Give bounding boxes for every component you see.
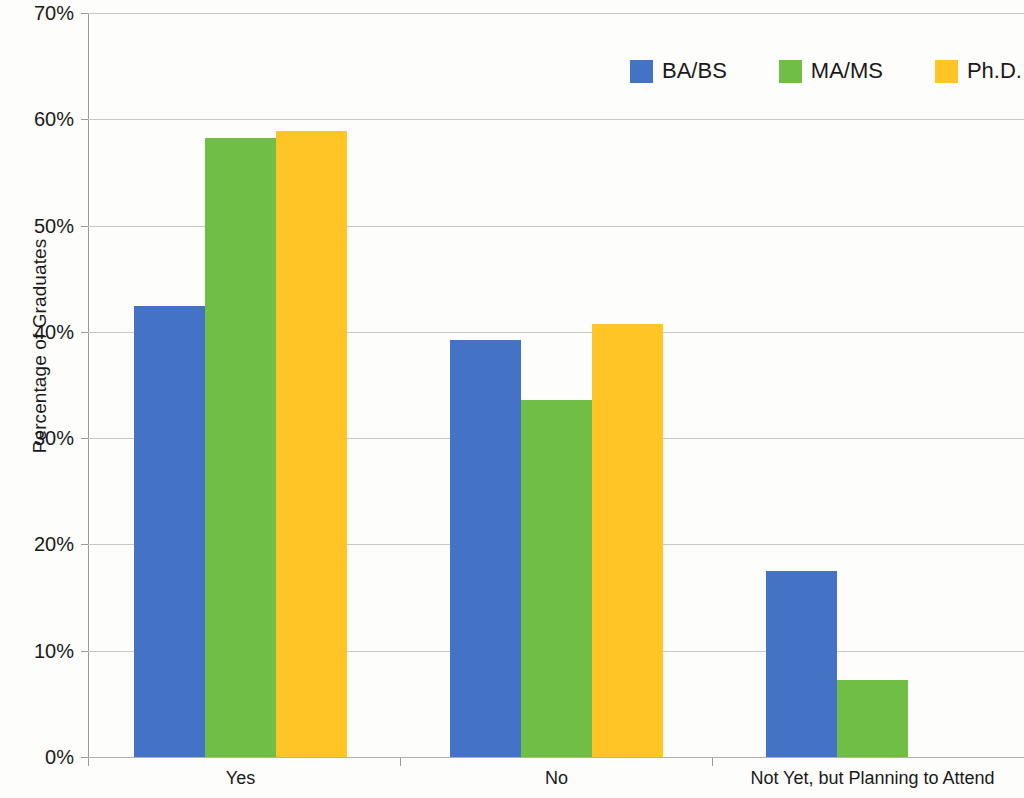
y-axis-tick-mark [81, 438, 88, 439]
x-axis-category-label: Not Yet, but Planning to Attend [750, 768, 994, 789]
bar [276, 131, 347, 757]
bar [134, 306, 205, 757]
bar [521, 400, 592, 757]
x-axis-tick-mark [88, 758, 89, 766]
legend-spacer [883, 71, 935, 72]
gridline [88, 757, 1024, 758]
x-axis-category-label: Yes [226, 768, 255, 789]
y-axis-tick-mark [81, 119, 88, 120]
bar [592, 324, 663, 757]
y-axis-tick-mark [81, 757, 88, 758]
legend-swatch-icon [779, 60, 802, 83]
legend-spacer [727, 71, 779, 72]
y-axis-tick-label: 70% [0, 2, 74, 25]
y-axis-tick-label: 30% [0, 427, 74, 450]
gridline [88, 13, 1024, 14]
legend-swatch-icon [935, 60, 958, 83]
y-axis-tick-label: 40% [0, 320, 74, 343]
y-axis-tick-label: 10% [0, 639, 74, 662]
y-axis-tick-mark [81, 226, 88, 227]
legend-label: Ph.D. [967, 58, 1022, 84]
chart-legend: BA/BSMA/MSPh.D. [630, 58, 1022, 84]
y-axis-tick-label: 60% [0, 108, 74, 131]
bar [766, 571, 837, 757]
y-axis-tick-label: 20% [0, 533, 74, 556]
legend-label: BA/BS [662, 58, 727, 84]
legend-swatch-icon [630, 60, 653, 83]
y-axis-tick-mark [81, 332, 88, 333]
legend-item-ba-bs: BA/BS [630, 58, 727, 84]
y-axis-title: Percentage of Graduates [29, 196, 51, 496]
x-axis-tick-mark [400, 758, 401, 766]
y-axis-tick-mark [81, 13, 88, 14]
legend-item-ma-ms: MA/MS [779, 58, 883, 84]
x-axis-tick-mark [712, 758, 713, 766]
bar-chart: Percentage of Graduates 0%10%20%30%40%50… [0, 0, 1024, 798]
bar [837, 680, 908, 757]
legend-label: MA/MS [811, 58, 883, 84]
x-axis-category-label: No [545, 768, 568, 789]
bar [450, 340, 521, 757]
gridline [88, 119, 1024, 120]
y-axis-tick-label: 50% [0, 214, 74, 237]
y-axis-tick-label: 0% [0, 746, 74, 769]
bar [205, 138, 276, 757]
plot-area [88, 13, 1024, 757]
y-axis-tick-mark [81, 651, 88, 652]
legend-item-ph-d: Ph.D. [935, 58, 1022, 84]
y-axis-tick-mark [81, 544, 88, 545]
